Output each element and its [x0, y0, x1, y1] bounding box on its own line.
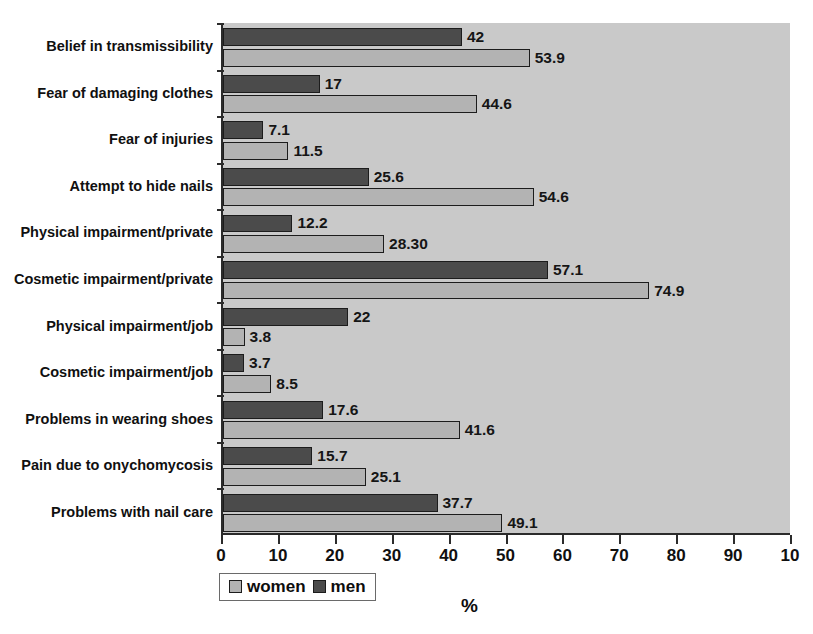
category-label: Cosmetic impairment/job [0, 365, 213, 380]
y-axis-tick [217, 349, 224, 351]
x-axis-tick [733, 535, 735, 544]
bar-women [223, 142, 288, 160]
bar-value-label-women: 8.5 [276, 376, 298, 392]
category-label: Belief in transmissibility [0, 39, 213, 54]
bar-value-label-women: 44.6 [482, 96, 512, 112]
bar-men [223, 168, 369, 186]
category-label: Problems with nail care [0, 505, 213, 520]
bar-chart: 4253.91744.67.111.525.654.612.228.3057.1… [0, 0, 813, 634]
y-axis-tick [217, 488, 224, 490]
bar-value-label-women: 54.6 [539, 189, 569, 205]
bar-value-label-men: 17 [325, 76, 342, 92]
bar-value-label-men: 25.6 [374, 169, 404, 185]
bar-men [223, 215, 292, 233]
bar-value-label-women: 3.8 [250, 329, 272, 345]
bar-value-label-men: 57.1 [553, 262, 583, 278]
x-axis-tick-label: 50 [496, 547, 515, 564]
bar-men [223, 494, 438, 512]
plot-area: 4253.91744.67.111.525.654.612.228.3057.1… [221, 23, 790, 535]
legend-item-men: men [313, 578, 366, 595]
x-axis-tick [790, 535, 792, 544]
bar-men [223, 28, 462, 46]
y-axis-tick [217, 256, 224, 258]
category-label: Pain due to onychomycosis [0, 458, 213, 473]
x-axis-tick [392, 535, 394, 544]
x-axis-tick [278, 535, 280, 544]
bar-women [223, 328, 245, 346]
bar-value-label-men: 15.7 [317, 448, 347, 464]
bar-value-label-men: 12.2 [297, 215, 327, 231]
bar-men [223, 401, 323, 419]
y-axis-tick [217, 442, 224, 444]
y-axis-tick [217, 23, 224, 25]
bar-value-label-men: 7.1 [268, 122, 290, 138]
bar-women [223, 421, 460, 439]
legend-label-women: women [247, 578, 306, 595]
x-axis-tick [562, 535, 564, 544]
category-label: Physical impairment/job [0, 319, 213, 334]
bar-women [223, 375, 271, 393]
category-label: Fear of injuries [0, 132, 213, 147]
bar-value-label-men: 22 [353, 309, 370, 325]
x-axis-tick [335, 535, 337, 544]
bar-women [223, 235, 384, 253]
y-axis-tick [217, 209, 224, 211]
x-axis-tick-label: 90 [724, 547, 743, 564]
x-axis-tick [676, 535, 678, 544]
bar-men [223, 354, 244, 372]
x-axis-tick-label: 10 [781, 547, 800, 564]
bar-women [223, 468, 366, 486]
bar-women [223, 49, 530, 67]
y-axis-tick [217, 163, 224, 165]
bar-value-label-men: 3.7 [249, 355, 271, 371]
bar-value-label-men: 42 [467, 29, 484, 45]
x-axis-title: % [461, 596, 478, 615]
x-axis-tick-label: 80 [667, 547, 686, 564]
x-axis-tick-label: 20 [325, 547, 344, 564]
x-axis-tick [619, 535, 621, 544]
x-axis-tick-label: 60 [553, 547, 572, 564]
bar-value-label-women: 28.30 [389, 236, 428, 252]
bar-men [223, 261, 548, 279]
bar-men [223, 447, 312, 465]
bar-value-label-women: 25.1 [371, 469, 401, 485]
category-label: Fear of damaging clothes [0, 86, 213, 101]
y-axis-tick [217, 395, 224, 397]
bar-women [223, 95, 477, 113]
bar-value-label-women: 53.9 [535, 50, 565, 66]
bar-men [223, 308, 348, 326]
bar-value-label-men: 17.6 [328, 402, 358, 418]
legend-swatch-women-icon [229, 580, 242, 593]
bar-value-label-women: 11.5 [293, 143, 322, 159]
bar-value-label-women: 41.6 [465, 422, 495, 438]
x-axis-tick-label: 30 [382, 547, 401, 564]
bar-value-label-women: 74.9 [654, 283, 684, 299]
bar-women [223, 514, 502, 532]
bar-value-label-women: 49.1 [507, 515, 537, 531]
x-axis-tick [221, 535, 223, 544]
legend-label-men: men [331, 578, 366, 595]
x-axis-tick [506, 535, 508, 544]
category-label: Attempt to hide nails [0, 179, 213, 194]
x-axis-tick-label: 70 [610, 547, 629, 564]
x-axis-tick-label: 40 [439, 547, 458, 564]
bar-men [223, 121, 263, 139]
y-axis-tick [217, 70, 224, 72]
bar-women [223, 188, 534, 206]
bar-men [223, 75, 320, 93]
legend-item-women: women [229, 578, 306, 595]
legend-swatch-men-icon [313, 580, 326, 593]
x-axis-tick [449, 535, 451, 544]
bar-value-label-men: 37.7 [443, 495, 473, 511]
y-axis-tick [217, 116, 224, 118]
x-axis-tick-label: 10 [268, 547, 287, 564]
chart-legend: women men [219, 573, 376, 601]
y-axis-tick [217, 302, 224, 304]
x-axis-tick-label: 0 [216, 547, 225, 564]
category-label: Cosmetic impairment/private [0, 272, 213, 287]
bar-women [223, 282, 649, 300]
category-label: Problems in wearing shoes [0, 412, 213, 427]
category-label: Physical impairment/private [0, 225, 213, 240]
